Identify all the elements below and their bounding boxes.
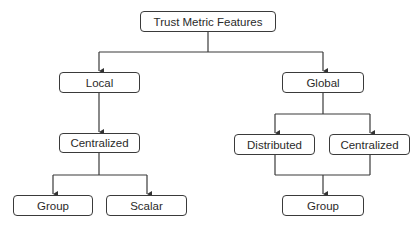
node-local-group: Group bbox=[13, 195, 93, 216]
node-global-centralized: Centralized bbox=[329, 134, 410, 155]
node-global: Global bbox=[282, 72, 364, 93]
node-local-centralized: Centralized bbox=[59, 133, 140, 153]
connector-lines bbox=[0, 0, 419, 228]
node-local-scalar: Scalar bbox=[106, 195, 187, 216]
node-global-group: Group bbox=[282, 195, 364, 216]
node-trust-metric-features: Trust Metric Features bbox=[140, 11, 276, 32]
node-global-distributed: Distributed bbox=[234, 134, 315, 155]
node-local: Local bbox=[59, 72, 140, 93]
